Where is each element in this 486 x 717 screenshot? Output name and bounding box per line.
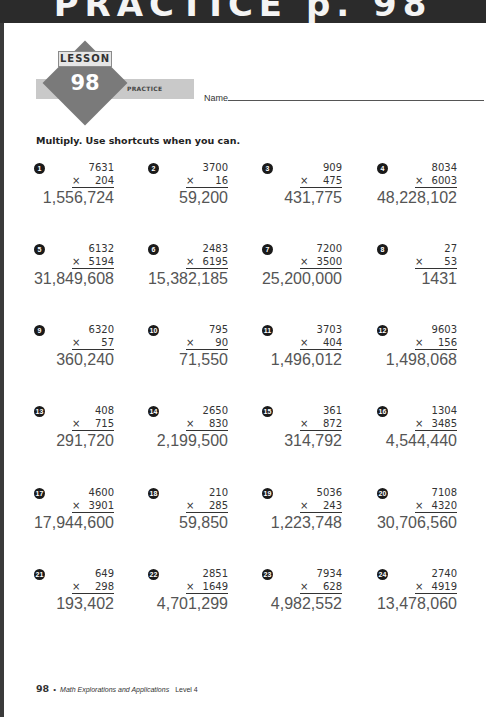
multiplicand: 9603	[432, 324, 457, 335]
multiplicand: 2740	[432, 568, 457, 579]
answer-field[interactable]: 431,775	[284, 189, 342, 207]
multiplier-row: ×3485	[415, 418, 457, 431]
answer-field[interactable]: 2,199,500	[157, 432, 228, 450]
multiplier-row: ×475	[300, 175, 342, 188]
top-banner: PRACTICE p. 98	[0, 0, 486, 23]
multiplicand: 5036	[317, 487, 342, 498]
multiplier: 298	[95, 581, 114, 592]
answer-field[interactable]: 4,982,552	[271, 595, 342, 613]
multiplicand: 408	[95, 405, 114, 416]
problem-17: 174600×390117,944,600	[34, 487, 144, 547]
times-icon: ×	[72, 175, 80, 186]
answer-field[interactable]: 25,200,000	[262, 270, 342, 288]
times-icon: ×	[415, 256, 423, 267]
answer-field[interactable]: 1431	[421, 270, 457, 288]
badge-lesson-label: LESSON	[58, 51, 112, 67]
answer-field[interactable]: 1,496,012	[271, 351, 342, 369]
multiplier: 156	[438, 337, 457, 348]
footer-bullet: •	[53, 685, 56, 694]
answer-field[interactable]: 4,701,299	[157, 595, 228, 613]
times-icon: ×	[415, 500, 423, 511]
problem-19: 195036×2431,223,748	[262, 487, 372, 547]
problem-number-badge: 6	[148, 244, 159, 255]
multiplicand: 7200	[317, 243, 342, 254]
answer-field[interactable]: 15,382,185	[148, 270, 228, 288]
problem-number-badge: 7	[262, 244, 273, 255]
answer-field[interactable]: 314,792	[284, 432, 342, 450]
times-icon: ×	[186, 256, 194, 267]
multiplier: 57	[101, 337, 114, 348]
multiplier: 16	[215, 175, 228, 186]
problem-number-badge: 8	[377, 244, 388, 255]
multiplicand: 361	[323, 405, 342, 416]
answer-field[interactable]: 59,200	[179, 189, 228, 207]
multiplicand: 27	[444, 243, 457, 254]
multiplier-row: ×285	[186, 500, 228, 513]
multiplier-row: ×628	[300, 581, 342, 594]
times-icon: ×	[72, 500, 80, 511]
problem-24: 242740×491913,478,060	[377, 568, 486, 628]
problem-number-badge: 9	[34, 325, 45, 336]
times-icon: ×	[300, 500, 308, 511]
problem-number-badge: 15	[262, 406, 273, 417]
times-icon: ×	[186, 581, 194, 592]
answer-field[interactable]: 71,550	[179, 351, 228, 369]
multiplier: 1649	[203, 581, 228, 592]
multiplicand: 2483	[203, 243, 228, 254]
problem-number-badge: 20	[377, 488, 388, 499]
multiplicand: 4600	[89, 487, 114, 498]
problem-number-badge: 17	[34, 488, 45, 499]
problem-18: 18210×28559,850	[148, 487, 258, 547]
problem-23: 237934×6284,982,552	[262, 568, 372, 628]
multiplier-row: ×830	[186, 418, 228, 431]
badge-lesson-number: 98	[56, 71, 114, 95]
answer-field[interactable]: 193,402	[56, 595, 114, 613]
answer-field[interactable]: 13,478,060	[377, 595, 457, 613]
multiplier: 715	[95, 418, 114, 429]
problem-12: 129603×1561,498,068	[377, 324, 486, 384]
multiplier: 204	[95, 175, 114, 186]
multiplicand: 1304	[432, 405, 457, 416]
times-icon: ×	[415, 418, 423, 429]
answer-field[interactable]: 360,240	[56, 351, 114, 369]
name-field-line[interactable]	[228, 100, 484, 101]
times-icon: ×	[186, 175, 194, 186]
answer-field[interactable]: 48,228,102	[377, 189, 457, 207]
multiplier-row: ×715	[72, 418, 114, 431]
answer-field[interactable]: 1,223,748	[271, 514, 342, 532]
answer-field[interactable]: 31,849,608	[34, 270, 114, 288]
problem-8: 827×531431	[377, 243, 486, 303]
answer-field[interactable]: 4,544,440	[386, 432, 457, 450]
answer-field[interactable]: 291,720	[56, 432, 114, 450]
name-label: Name	[204, 93, 228, 103]
problem-number-badge: 19	[262, 488, 273, 499]
problem-number-badge: 23	[262, 569, 273, 580]
multiplier: 6195	[203, 256, 228, 267]
multiplier: 243	[323, 500, 342, 511]
problem-7: 77200×350025,200,000	[262, 243, 372, 303]
lesson-badge: LESSON 98 PRACTICE	[34, 43, 194, 123]
problem-10: 10795×9071,550	[148, 324, 258, 384]
problem-2: 23700×1659,200	[148, 162, 258, 222]
problem-number-badge: 1	[34, 163, 45, 174]
multiplier-row: ×243	[300, 500, 342, 513]
times-icon: ×	[300, 418, 308, 429]
times-icon: ×	[186, 337, 194, 348]
problem-22: 222851×16494,701,299	[148, 568, 258, 628]
problem-number-badge: 18	[148, 488, 159, 499]
multiplier-row: ×156	[415, 337, 457, 350]
answer-field[interactable]: 1,498,068	[386, 351, 457, 369]
answer-field[interactable]: 1,556,724	[43, 189, 114, 207]
multiplier: 475	[323, 175, 342, 186]
multiplier: 830	[209, 418, 228, 429]
answer-field[interactable]: 30,706,560	[377, 514, 457, 532]
answer-field[interactable]: 17,944,600	[34, 514, 114, 532]
answer-field[interactable]: 59,850	[179, 514, 228, 532]
times-icon: ×	[300, 175, 308, 186]
problem-5: 56132×519431,849,608	[34, 243, 144, 303]
multiplier-row: ×6003	[415, 175, 457, 188]
multiplier: 3901	[89, 500, 114, 511]
times-icon: ×	[300, 337, 308, 348]
multiplier: 3500	[317, 256, 342, 267]
multiplier-row: ×90	[186, 337, 228, 350]
